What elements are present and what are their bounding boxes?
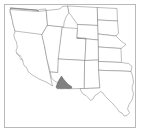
state-north-dakota [98,8,118,22]
state-wyoming [77,25,99,41]
map-canvas [0,0,141,134]
state-idaho [46,6,69,28]
state-oregon-outline [10,10,47,35]
state-kansas [99,47,122,63]
state-south-dakota [98,20,119,36]
state-nebraska [98,34,126,49]
locator-map-figure: Western United States locator map Outlin… [0,0,141,134]
state-outlines [10,6,134,116]
state-new-mexico [85,60,100,89]
state-montana [68,6,98,26]
state-oklahoma [99,62,132,72]
